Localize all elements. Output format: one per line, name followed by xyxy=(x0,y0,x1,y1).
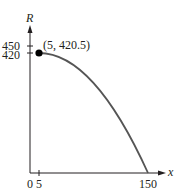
x-tick-label-5: 5 xyxy=(36,178,42,190)
x-axis-arrow-icon xyxy=(158,171,166,176)
point-annotation: (5, 420.5) xyxy=(43,39,90,51)
chart-canvas xyxy=(0,0,181,194)
y-axis-label: R xyxy=(26,12,33,24)
y-tick-label-420: 420 xyxy=(2,49,20,61)
y-axis-arrow-icon xyxy=(28,25,33,33)
x-tick-label-150: 150 xyxy=(139,178,157,190)
curve-line xyxy=(39,53,148,173)
x-tick-label-0: 0 xyxy=(27,178,33,190)
max-point xyxy=(35,49,42,56)
x-axis-label: x xyxy=(168,166,173,178)
